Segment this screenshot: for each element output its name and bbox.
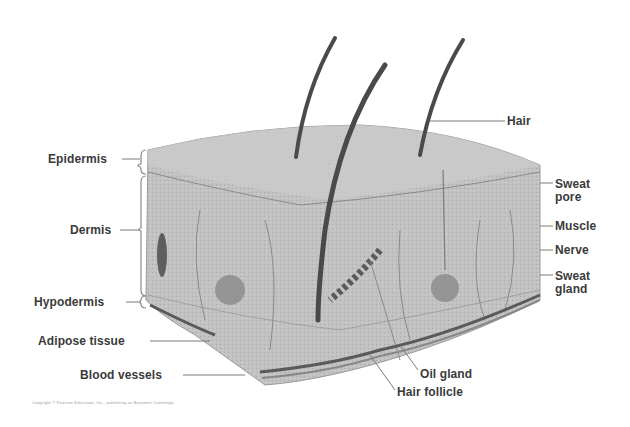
label-blood-vessels: Blood vessels [80,369,162,382]
skin-diagram: Epidermis Dermis Hypodermis Adipose tiss… [0,0,630,427]
copyright-caption: Copyright © Pearson Education, Inc., pub… [32,400,174,405]
sweat-gland-left [215,275,245,305]
label-epidermis: Epidermis [48,153,107,166]
label-oil-gland: Oil gland [420,368,472,381]
label-sweat-pore: Sweat pore [555,178,595,204]
label-sweat-gland: Sweat gland [555,270,595,296]
label-hair: Hair [507,115,531,128]
label-hair-follicle: Hair follicle [397,386,463,399]
label-dermis: Dermis [70,224,111,237]
arrector-muscle [157,233,167,277]
label-adipose-tissue: Adipose tissue [38,335,125,348]
label-nerve: Nerve [555,244,589,257]
label-muscle: Muscle [555,220,596,233]
label-hypodermis: Hypodermis [34,296,104,309]
layer-brackets [138,150,146,308]
sweat-gland-right [431,274,459,302]
skin-illustration [0,0,630,427]
